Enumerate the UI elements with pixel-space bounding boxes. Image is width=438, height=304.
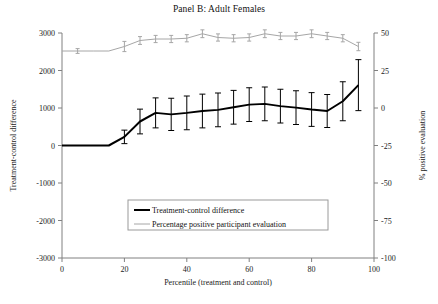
x-axis-tick-label: 60 bbox=[245, 265, 253, 274]
axes-group: -3000-2000-10000100020003000Treatment-co… bbox=[9, 29, 427, 287]
x-axis-tick-label: 80 bbox=[308, 265, 316, 274]
data-line bbox=[62, 34, 358, 51]
y-axis-tick-label: -1000 bbox=[36, 179, 55, 188]
y2-axis-tick-label: -75 bbox=[381, 217, 392, 226]
y2-axis-tick-label: -100 bbox=[381, 254, 396, 263]
chart-plot-area: -3000-2000-10000100020003000Treatment-co… bbox=[0, 0, 438, 304]
legend-label: Percentage positive participant evaluati… bbox=[152, 220, 286, 229]
x-axis-tick-label: 40 bbox=[183, 265, 191, 274]
y-axis-tick-label: 0 bbox=[51, 142, 55, 151]
y-axis-tick-label: 2000 bbox=[39, 67, 55, 76]
x-axis-tick-label: 100 bbox=[368, 265, 380, 274]
y-axis-tick-label: -3000 bbox=[36, 254, 55, 263]
x-axis-tick-label: 20 bbox=[120, 265, 128, 274]
y2-axis-tick-label: -25 bbox=[381, 142, 392, 151]
legend-label: Treatment-control difference bbox=[152, 206, 245, 215]
y-axis-tick-label: -2000 bbox=[36, 217, 55, 226]
y-axis-title: Treatment-control difference bbox=[9, 99, 18, 192]
data-series-group bbox=[62, 30, 361, 146]
data-line bbox=[62, 85, 358, 145]
y-axis-tick-label: 3000 bbox=[39, 29, 55, 38]
y2-axis-tick-label: 25 bbox=[381, 67, 389, 76]
y2-axis-tick-label: 50 bbox=[381, 29, 389, 38]
y2-axis-tick-label: -50 bbox=[381, 179, 392, 188]
chart-legend: Treatment-control differencePercentage p… bbox=[128, 200, 328, 230]
y2-axis-title: % positive evaluation bbox=[418, 111, 427, 180]
y2-axis-tick-label: 0 bbox=[381, 104, 385, 113]
chart-figure: Panel B: Adult Females -3000-2000-100001… bbox=[0, 0, 438, 304]
x-axis-tick-label: 0 bbox=[60, 265, 64, 274]
x-axis-title: Percentile (treatment and control) bbox=[164, 278, 272, 287]
y-axis-tick-label: 1000 bbox=[39, 104, 55, 113]
